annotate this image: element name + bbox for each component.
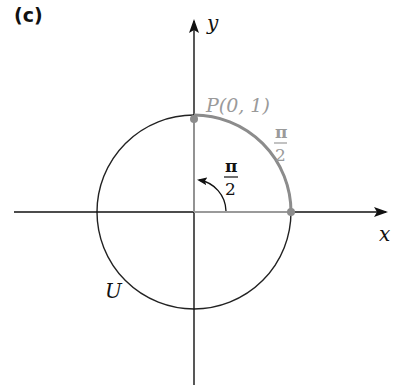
point-label-text: P(0, 1)	[205, 94, 270, 116]
point-1-0	[287, 208, 295, 216]
angle-label-numerator: π	[225, 156, 237, 176]
angle-label-denominator: 2	[225, 179, 236, 199]
arc-label-denominator: 2	[275, 145, 286, 165]
arc-length-label: π 2	[274, 122, 287, 165]
unit-circle-diagram: (c) y x U P(0, 1) π 2 π 2	[0, 0, 395, 386]
y-axis-label: y	[206, 11, 219, 35]
circle-label: U	[105, 279, 123, 303]
angle-label: π 2	[224, 156, 238, 199]
angle-arrow	[199, 180, 226, 211]
x-axis-label: x	[379, 222, 390, 246]
panel-label: (c)	[14, 4, 43, 26]
point-p	[190, 115, 198, 123]
arc-label-numerator: π	[275, 122, 287, 142]
point-label: P(0, 1)	[205, 94, 270, 116]
